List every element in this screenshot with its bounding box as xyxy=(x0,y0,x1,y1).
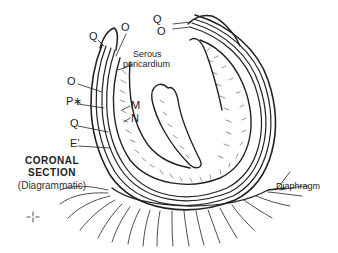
label-q-left: Q xyxy=(70,118,79,129)
label-serous-line2: pericardium xyxy=(123,60,170,69)
caption-title-line2: SECTION xyxy=(14,168,90,178)
label-diaphragm: Diaphragm xyxy=(276,182,320,191)
label-e-left: E’ xyxy=(70,138,80,149)
diagram-caption: CORONAL SECTION (Diagrammatic) xyxy=(14,156,90,191)
label-serous-line1: Serous xyxy=(133,50,162,59)
label-q-top-right: Q xyxy=(153,14,162,25)
coronal-section-diagram: Q O Serous pericardium Q O O P∗ Q E’ M N… xyxy=(0,0,338,253)
label-m: M xyxy=(131,100,140,111)
label-o-left: O xyxy=(67,76,76,87)
label-q-top-left: Q xyxy=(89,31,98,42)
caption-subtitle: (Diagrammatic) xyxy=(14,181,90,191)
label-o-top-right: O xyxy=(157,26,166,37)
caption-title-line1: CORONAL xyxy=(14,156,90,166)
heart-pericardium-drawing xyxy=(0,0,338,253)
label-p-left: P∗ xyxy=(66,96,82,107)
label-n: N xyxy=(131,113,139,124)
label-o-top-left: O xyxy=(121,22,130,33)
